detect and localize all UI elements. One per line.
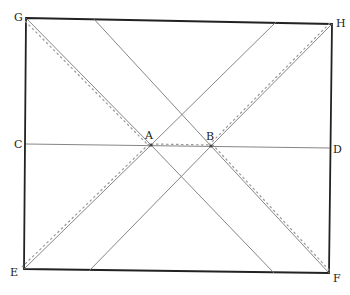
line-BF-solid bbox=[211, 146, 329, 273]
line-top-A bbox=[151, 22, 276, 145]
frame-rectangle bbox=[24, 18, 332, 273]
label-G: G bbox=[14, 11, 23, 24]
label-A: A bbox=[144, 129, 154, 142]
geometric-diagram: G H E F C D A B bbox=[0, 0, 350, 295]
line-GA-solid bbox=[26, 18, 151, 145]
line-HB-dashed bbox=[209, 23, 330, 145]
label-H: H bbox=[336, 17, 346, 30]
line-AB-dashed bbox=[151, 144, 211, 145]
point-A-marker bbox=[149, 143, 152, 146]
label-F: F bbox=[333, 272, 341, 285]
line-top-B bbox=[93, 18, 211, 146]
line-GA-dashed bbox=[25, 21, 150, 147]
line-AE-solid bbox=[24, 145, 151, 269]
label-D: D bbox=[333, 143, 342, 156]
label-E: E bbox=[10, 266, 18, 279]
point-B-marker bbox=[209, 144, 212, 147]
label-C: C bbox=[14, 138, 22, 151]
line-HB-solid bbox=[211, 24, 332, 146]
line-AE-dashed bbox=[22, 144, 149, 267]
line-B-bottom bbox=[89, 146, 211, 271]
label-B: B bbox=[206, 130, 214, 143]
line-BF-dashed bbox=[212, 144, 330, 271]
line-A-bottom bbox=[151, 145, 274, 273]
